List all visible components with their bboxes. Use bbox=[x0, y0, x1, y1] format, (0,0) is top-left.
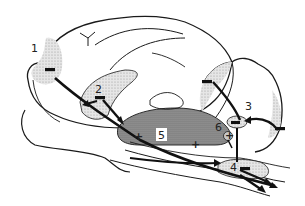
sulcus-line bbox=[110, 38, 185, 70]
olfactory-outline bbox=[22, 110, 130, 172]
sulcus-line bbox=[152, 53, 185, 67]
sulcus-line bbox=[95, 29, 183, 45]
minus-marker-cerebellar-edge bbox=[275, 127, 285, 130]
minus-marker-3 bbox=[231, 121, 240, 124]
label-region-3: 3 bbox=[245, 100, 252, 113]
pathway-5-to-4 bbox=[130, 158, 218, 163]
sulcus-line bbox=[80, 32, 95, 46]
thalamic-outline bbox=[150, 93, 183, 110]
label-region-6: 6 bbox=[215, 121, 222, 134]
minus-marker-cerebellar bbox=[202, 80, 212, 83]
pathway-cerebellar bbox=[213, 82, 240, 120]
minus-marker-1 bbox=[45, 68, 55, 71]
minus-marker-2 bbox=[95, 96, 105, 99]
label-region-5: 5 bbox=[158, 129, 165, 142]
label-region-2: 2 bbox=[95, 83, 102, 96]
plus-marker-5a: + bbox=[134, 130, 143, 143]
minus-marker-4 bbox=[240, 167, 250, 170]
region-2-shade bbox=[80, 70, 137, 119]
label-region-4: 4 bbox=[230, 161, 237, 174]
label-region-1: 1 bbox=[31, 42, 38, 55]
brain-pathway-diagram: + + + 1 2 3 4 5 6 bbox=[0, 0, 305, 206]
plus-marker-6: + bbox=[225, 129, 234, 142]
plus-marker-5b: + bbox=[191, 138, 200, 151]
